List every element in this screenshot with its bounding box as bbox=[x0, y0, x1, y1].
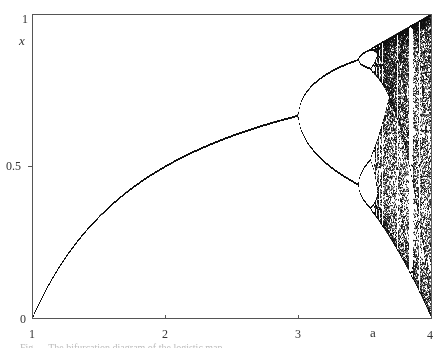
y-axis-label: x bbox=[19, 33, 25, 49]
x-tick-label-3: 3 bbox=[295, 328, 301, 340]
y-tick-label-0.5: 0.5 bbox=[6, 160, 21, 172]
y-tick-0 bbox=[32, 318, 36, 319]
plot-frame bbox=[32, 14, 432, 319]
y-tick-label-0: 0 bbox=[20, 313, 26, 325]
x-tick-label-1: 1 bbox=[29, 328, 35, 340]
top-caption-fragment: ... bbox=[20, 0, 440, 6]
x-tick-2 bbox=[165, 315, 166, 319]
x-tick-label-2: 2 bbox=[162, 328, 168, 340]
y-tick-label-1: 1 bbox=[22, 13, 28, 25]
x-tick-3 bbox=[298, 315, 299, 319]
y-tick-1 bbox=[32, 14, 36, 15]
bottom-caption-fragment: Fig. ... The bifurcation diagram of the … bbox=[20, 342, 440, 348]
x-tick-label-4: 4 bbox=[427, 329, 433, 341]
y-tick-0.5 bbox=[28, 166, 32, 167]
x-axis-label: a bbox=[370, 325, 376, 341]
